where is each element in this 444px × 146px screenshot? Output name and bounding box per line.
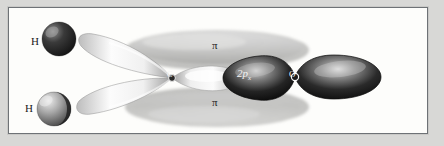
p-orbital-label-base: 2p xyxy=(237,67,248,79)
pi-top-label: π xyxy=(212,39,218,51)
p-orbital-label-subscript: x xyxy=(248,74,251,82)
pi-bottom-label: π xyxy=(212,96,218,108)
hydrogen-atom-top xyxy=(42,22,76,56)
hydrogen-atom-bottom xyxy=(37,92,71,126)
hydrogen-top-label: H xyxy=(31,35,39,47)
p-orbital-label: 2px xyxy=(237,67,251,82)
oxygen-label: O xyxy=(289,69,296,79)
orbital-diagram-figure: H H π π C O 2px xyxy=(8,7,428,134)
oxygen-2p-right-lobe xyxy=(295,55,381,99)
hydrogen-bottom-label: H xyxy=(25,102,33,114)
carbon-label: C xyxy=(167,70,172,79)
orbital-diagram-canvas xyxy=(9,8,427,133)
